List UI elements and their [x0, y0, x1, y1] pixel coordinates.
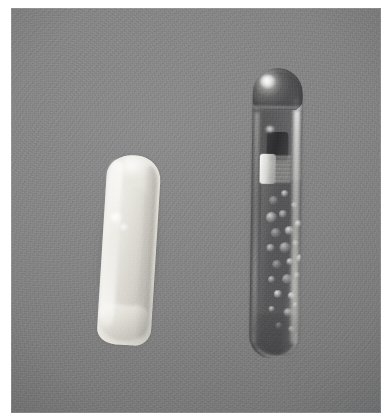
photograph-page	[0, 0, 387, 420]
photo-plate	[11, 8, 381, 413]
photo-vignette	[11, 8, 381, 413]
